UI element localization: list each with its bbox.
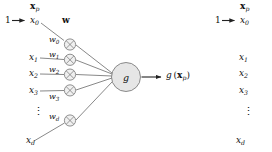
repeat-bias-value-label: 1 [215, 16, 221, 25]
repeat-input-ellipsis: ⋮ [243, 106, 254, 117]
repeat-input-vector-label: xp [240, 2, 249, 11]
edge-m1-g [76, 60, 112, 74]
edge-m0-g [76, 45, 112, 73]
bias-value-label: 1 [5, 16, 11, 25]
diagram-wires [0, 0, 272, 152]
weight-label-w2: w2 [49, 66, 59, 74]
multiplier-node-2 [64, 69, 75, 80]
edge-x2 [40, 74, 64, 75]
edge-md-g [76, 82, 112, 120]
multiplier-node-0 [64, 39, 75, 50]
weight-label-wd: wd [49, 113, 59, 121]
activation-node-label: g [123, 72, 129, 83]
weight-vector-label: w [62, 16, 70, 25]
single-unit-network-figure: xp 1 x0 w x1 x2 x3 ⋮ xd w0 w1 w2 w3 wd g… [0, 0, 272, 152]
input-label-x2: x2 [29, 69, 38, 78]
weight-label-w1: w1 [49, 51, 59, 59]
repeat-input-label-x3: x3 [239, 86, 248, 95]
repeat-input-label-x2: x2 [239, 69, 248, 78]
input-label-x3: x3 [29, 86, 38, 95]
input-label-x1: x1 [29, 53, 38, 62]
weight-label-w3: w3 [49, 93, 59, 101]
edge-x3 [40, 91, 64, 92]
input-ellipsis: ⋮ [33, 106, 44, 117]
edge-xd [34, 123, 65, 141]
weight-label-w0: w0 [49, 36, 59, 44]
multiplier-node-d [64, 115, 75, 126]
output-label: g (xp) [166, 71, 190, 80]
input-label-xd: xd [26, 136, 35, 145]
repeat-input-label-x0: x0 [240, 16, 249, 25]
input-vector-label: xp [30, 2, 39, 11]
input-label-x0: x0 [30, 16, 39, 25]
multiplier-node-1 [64, 54, 75, 65]
multiplier-node-3 [64, 85, 75, 96]
repeat-input-label-xd: xd [236, 136, 245, 145]
repeat-input-label-x1: x1 [239, 53, 248, 62]
edge-m2-g [76, 75, 112, 77]
